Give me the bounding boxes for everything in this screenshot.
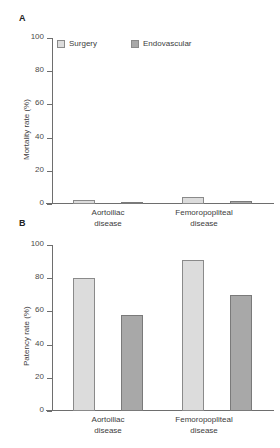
panel-a-y-axis-title: Mortality rate (%) — [22, 99, 31, 160]
y-tick-label: 0 — [40, 198, 44, 207]
y-tick: 40 — [47, 345, 52, 346]
y-tick: 60 — [47, 311, 52, 312]
bar-endovascular-1 — [121, 202, 143, 204]
bar-endovascular-1 — [121, 315, 143, 411]
panel-b-category-label-2-line-1: Femoropopliteal — [158, 414, 250, 425]
y-tick: 80 — [47, 278, 52, 279]
y-tick-label: 20 — [35, 372, 44, 381]
y-tick: 20 — [47, 378, 52, 379]
panel-a: A Surgery Endovascular 020406080100 Mort… — [0, 0, 280, 234]
y-tick-label: 100 — [31, 239, 44, 248]
y-tick: 100 — [47, 245, 52, 246]
y-tick-label: 60 — [35, 305, 44, 314]
bar-endovascular-2 — [230, 295, 252, 411]
figure: A Surgery Endovascular 020406080100 Mort… — [0, 0, 280, 448]
y-tick: 40 — [47, 138, 52, 139]
bar-surgery-2 — [182, 197, 204, 204]
panel-a-bars — [53, 38, 270, 204]
panel-b-category-label-2-line-2: disease — [158, 425, 250, 436]
bar-surgery-1 — [73, 278, 95, 411]
panel-b-y-axis-title: Patency rate (%) — [22, 306, 31, 366]
bar-endovascular-2 — [230, 201, 252, 204]
panel-a-plot-area: 020406080100 — [52, 38, 270, 204]
bar-surgery-2 — [182, 260, 204, 411]
panel-a-letter: A — [19, 13, 26, 23]
panel-b-category-label-1-line-2: disease — [62, 425, 154, 436]
y-tick: 100 — [47, 38, 52, 39]
y-tick-label: 0 — [40, 405, 44, 414]
panel-b-category-label-1-line-1: Aortoiliac — [62, 414, 154, 425]
y-tick-label: 40 — [35, 339, 44, 348]
panel-b-category-label-2: Femoropopliteal disease — [158, 414, 250, 436]
y-tick: 0 — [47, 204, 52, 205]
y-tick: 20 — [47, 171, 52, 172]
y-tick-label: 20 — [35, 165, 44, 174]
y-tick: 80 — [47, 71, 52, 72]
panel-b: B 020406080100 Patency rate (%) Aortoili… — [0, 214, 280, 448]
bar-surgery-1 — [73, 200, 95, 204]
panel-b-category-label-1: Aortoiliac disease — [62, 414, 154, 436]
y-tick-label: 60 — [35, 98, 44, 107]
y-tick: 60 — [47, 104, 52, 105]
y-tick-label: 100 — [31, 32, 44, 41]
panel-b-letter: B — [19, 218, 26, 228]
y-tick-label: 40 — [35, 132, 44, 141]
y-tick-label: 80 — [35, 65, 44, 74]
y-tick-label: 80 — [35, 272, 44, 281]
panel-b-plot-area: 020406080100 — [52, 245, 270, 411]
panel-b-bars — [53, 245, 270, 411]
y-tick: 0 — [47, 411, 52, 412]
